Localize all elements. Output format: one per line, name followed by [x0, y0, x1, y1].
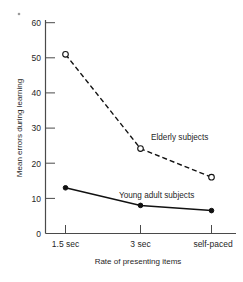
- line-chart: 60 50 40 30 20 10 0 1.5 sec 3 sec self-p…: [0, 0, 243, 282]
- y-tick-label-0: 0: [36, 229, 41, 239]
- x-tick-label-3: self-paced: [193, 239, 232, 249]
- data-point-elderly-1: [63, 52, 69, 58]
- data-point-young-adult-1: [63, 186, 68, 191]
- y-tick-label-60: 60: [32, 18, 42, 28]
- y-tick-label-30: 30: [32, 123, 42, 133]
- x-axis-title: Rate of presenting items: [95, 257, 182, 266]
- chart-figure: 60 50 40 30 20 10 0 1.5 sec 3 sec self-p…: [0, 0, 243, 282]
- x-tick-label-2: 3 sec: [130, 239, 151, 249]
- scan-speck-artifact: [18, 13, 21, 16]
- series-label-elderly: Elderly subjects: [151, 133, 208, 142]
- x-tick-label-1: 1.5 sec: [52, 239, 80, 249]
- y-axis-title: Mean errors during learning: [15, 79, 24, 177]
- y-tick-label-10: 10: [32, 194, 42, 204]
- y-tick-label-20: 20: [32, 159, 42, 169]
- data-point-young-adult-3: [209, 208, 214, 213]
- series-line-elderly: [66, 54, 212, 177]
- y-tick-label-40: 40: [32, 88, 42, 98]
- data-point-young-adult-2: [138, 203, 143, 208]
- y-tick-label-50: 50: [32, 53, 42, 63]
- data-point-elderly-3: [209, 174, 215, 180]
- data-point-elderly-2: [138, 146, 144, 152]
- series-label-young-adult: Young adult subjects: [119, 191, 194, 200]
